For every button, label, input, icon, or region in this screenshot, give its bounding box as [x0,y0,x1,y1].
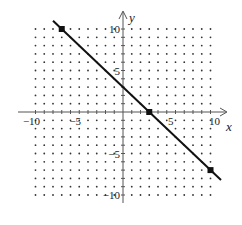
grid-dot [148,136,150,138]
grid-dot [35,78,37,80]
grid-dot [140,153,142,155]
grid-dot [78,95,80,97]
grid-dot [210,36,212,38]
grid-dot [148,194,150,196]
grid-dot [78,70,80,72]
grid-dot [175,95,177,97]
grid-dot [35,144,37,146]
y-tick-label: −10 [103,189,121,201]
grid-dot [210,78,212,80]
grid-dot [148,95,150,97]
grid-dot [183,194,185,196]
grid-dot [210,153,212,155]
grid-dot [35,45,37,47]
grid-dot [192,70,194,72]
grid-dot [157,45,159,47]
grid-dot [96,95,98,97]
grid-dot [96,70,98,72]
grid-dot [70,28,72,30]
grid-dot [105,161,107,163]
grid-dot [131,61,133,63]
grid-dot [70,194,72,196]
x-tick-label: −10 [23,115,41,127]
grid-dot [166,86,168,88]
grid-dot [140,78,142,80]
grid-dot [175,103,177,105]
axes [18,11,227,203]
grid-dot [105,61,107,63]
grid-dot [131,78,133,80]
grid-dot [148,70,150,72]
grid-dot [96,103,98,105]
grid-dot [157,28,159,30]
grid-dot [192,36,194,38]
grid-dot [61,103,63,105]
grid-dot [157,61,159,63]
grid-dot [113,144,115,146]
grid-dot [157,144,159,146]
grid-dot [140,53,142,55]
grid-dot [201,70,203,72]
grid-dot [52,95,54,97]
grid-dot [96,53,98,55]
grid-dot [192,136,194,138]
grid-dot [148,103,150,105]
grid-dot [70,144,72,146]
grid-dot [52,86,54,88]
grid-dot [201,128,203,130]
grid-dot [113,103,115,105]
grid-dot [175,144,177,146]
grid-dot [78,194,80,196]
grid-dot [210,95,212,97]
grid-dot [166,61,168,63]
grid-dot [210,161,212,163]
grid-dot [43,136,45,138]
grid-dot [52,36,54,38]
grid-dot [96,144,98,146]
grid-dot [210,136,212,138]
grid-dot [148,36,150,38]
grid-dot [192,186,194,188]
grid-dot [131,36,133,38]
grid-dot [166,169,168,171]
grid-dot [96,186,98,188]
grid-dot [87,78,89,80]
grid-dot [87,86,89,88]
grid-dot [70,161,72,163]
grid-dot [148,86,150,88]
grid-dot [148,78,150,80]
grid-dot [78,169,80,171]
grid-dot [157,186,159,188]
grid-dot [131,119,133,121]
grid-dot [87,45,89,47]
grid-dot [78,103,80,105]
grid-dot [148,161,150,163]
x-tick-label: 5 [168,115,174,127]
grid-dot [140,136,142,138]
grid-dot [61,61,63,63]
coordinate-plane: −10−5510105−5−10 x y [0,0,242,225]
grid-dot [131,103,133,105]
grid-dot [210,103,212,105]
grid-dot [70,95,72,97]
grid-dot [52,53,54,55]
grid-dot [35,194,37,196]
data-point [59,26,65,32]
grid-dot [43,128,45,130]
grid-dot [61,119,63,121]
grid-dot [78,28,80,30]
grid-dot [61,194,63,196]
grid-dot [78,144,80,146]
grid-dot [87,70,89,72]
grid-dot [87,178,89,180]
grid-dot [35,53,37,55]
grid-dot [87,186,89,188]
grid-dot [105,144,107,146]
grid-dot [70,186,72,188]
grid-dot [105,169,107,171]
grid-dot [148,128,150,130]
grid-dot [210,53,212,55]
grid-dot [35,128,37,130]
grid-dot [183,136,185,138]
grid-dot [166,53,168,55]
